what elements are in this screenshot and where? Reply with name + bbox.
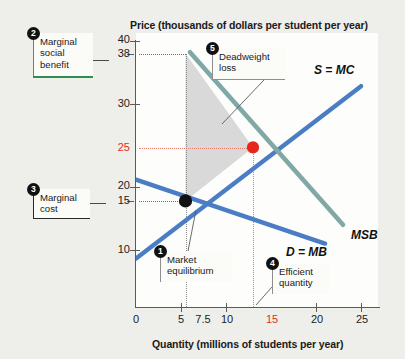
callout-badge-5: 5 <box>206 42 219 55</box>
x-axis-title: Quantity (millions of students per year) <box>152 338 343 350</box>
x-tick-label-0: 0 <box>119 313 153 325</box>
callout-badge-3: 3 <box>27 183 40 196</box>
efficient-quantity-marker <box>247 141 259 153</box>
y-axis-line <box>135 40 136 308</box>
callout-2-line3: benefit <box>40 59 88 70</box>
callout-5-line2: loss <box>219 62 280 73</box>
callout-deadweight-loss: 5 Deadweight loss <box>212 48 285 80</box>
callout-1-line1: Market <box>167 254 227 265</box>
y-tick-label-30: 30 <box>104 98 130 109</box>
callout-badge-2: 2 <box>27 27 40 40</box>
y-tick-label-15: 15 <box>104 195 130 206</box>
callout-4-line1: Efficient <box>279 266 324 277</box>
callout-4-line2: quantity <box>279 277 324 288</box>
supply-curve-label: S = MC <box>314 63 354 77</box>
msb-curve-label: MSB <box>351 228 378 242</box>
y-axis-title: Price (thousands of dollars per student … <box>130 19 368 31</box>
callout-2-line1: Marginal <box>40 36 88 47</box>
y-tick-label-25: 25 <box>104 142 130 153</box>
callout-efficient-quantity: 4 Efficient quantity <box>272 263 329 294</box>
chart-figure: Price (thousands of dollars per student … <box>0 0 405 359</box>
callout-1-line2: equilibrium <box>167 265 227 276</box>
callout-5-line1: Deadweight <box>219 51 280 62</box>
callout-marginal-cost: 3 Marginal cost <box>33 189 90 219</box>
demand-curve-label: D = MB <box>286 245 327 259</box>
callout-badge-1: 1 <box>154 245 167 258</box>
x-tick-label-15: 15 <box>255 313 289 325</box>
callout-2-leader <box>93 60 109 61</box>
callout-badge-4: 4 <box>266 257 279 270</box>
x-tick-label-20: 20 <box>300 313 334 325</box>
supply-curve-smc <box>136 86 361 258</box>
y-tick-label-38: 38 <box>104 48 130 59</box>
callout-3-leader <box>90 203 106 204</box>
callout-market-equilibrium: 1 Market equilibrium <box>160 251 232 282</box>
x-tick-label-10: 10 <box>210 313 244 325</box>
x-axis-line <box>135 307 380 308</box>
y-tick-label-40: 40 <box>104 34 130 45</box>
callout-marginal-social-benefit: 2 Marginal social benefit <box>33 33 93 77</box>
y-tick-label-20: 20 <box>104 180 130 191</box>
market-equilibrium-marker <box>179 194 192 207</box>
callout-2-line2: social <box>40 47 88 58</box>
callout-2-accent-rule <box>33 76 93 78</box>
callout-3-line1: Marginal <box>40 192 85 203</box>
y-tick-label-10: 10 <box>104 244 130 255</box>
demand-curve-dmb <box>136 180 325 244</box>
x-tick-label-25: 25 <box>345 313 379 325</box>
callout-3-line2: cost <box>40 203 85 214</box>
